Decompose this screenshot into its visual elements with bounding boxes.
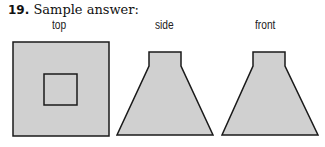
side-view — [117, 52, 213, 135]
top-view-inner-square — [44, 74, 77, 105]
front-view-shape — [222, 52, 318, 135]
top-view — [13, 42, 109, 136]
side-view-shape — [117, 52, 213, 135]
front-view — [222, 52, 318, 135]
views-drawing — [0, 0, 325, 147]
